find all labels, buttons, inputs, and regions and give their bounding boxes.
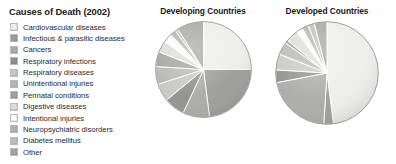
- legend-item: Respiratory infections: [8, 56, 148, 67]
- legend-swatch: [10, 57, 18, 65]
- legend-item-label: Respiratory diseases: [23, 67, 94, 78]
- legend-swatch: [10, 103, 18, 111]
- pie-canvas-developed: [273, 19, 381, 127]
- legend-item-label: Digestive diseases: [23, 101, 86, 112]
- legend-list: Cardiovascular diseasesInfectious & para…: [8, 22, 148, 158]
- pie-chart-developed: Developed Countries: [268, 6, 386, 127]
- legend-item-label: Cancers: [23, 44, 51, 55]
- legend-item-label: Neuropsychiatric disorders: [23, 124, 113, 135]
- legend-item: Digestive diseases: [8, 101, 148, 112]
- pie-title-developed: Developed Countries: [268, 6, 386, 16]
- legend-item: Infectious & parasitic diseases: [8, 33, 148, 44]
- legend-item-label: Infectious & parasitic diseases: [23, 33, 125, 44]
- legend-swatch: [10, 23, 18, 31]
- pie-title-developing: Developing Countries: [148, 6, 258, 16]
- legend-item-label: Cardiovascular diseases: [23, 22, 106, 33]
- legend-item: Neuropsychiatric disorders: [8, 124, 148, 135]
- legend-item: Diabetes mellitus: [8, 135, 148, 146]
- legend-swatch: [10, 137, 18, 145]
- legend-swatch: [10, 69, 18, 77]
- legend-item-label: Diabetes mellitus: [23, 135, 81, 146]
- legend-swatch: [10, 46, 18, 54]
- legend-swatch: [10, 91, 18, 99]
- legend-item: Intentional injuries: [8, 113, 148, 124]
- pie-svg-developed: [273, 19, 381, 127]
- legend-panel: Causes of Death (2002) Cardiovascular di…: [8, 6, 148, 158]
- pie-shading-overlay: [276, 22, 379, 125]
- legend-swatch: [10, 34, 18, 42]
- pie-canvas-developing: [153, 19, 254, 120]
- pie-chart-developing: Developing Countries: [148, 6, 258, 120]
- figure-title: Causes of Death (2002): [9, 6, 148, 17]
- causes-of-death-figure: Causes of Death (2002) Cardiovascular di…: [0, 0, 396, 164]
- legend-item: Unintentional injuries: [8, 78, 148, 89]
- legend-item: Cancers: [8, 44, 148, 55]
- legend-item-label: Respiratory infections: [23, 56, 96, 67]
- pie-svg-developing: [153, 19, 254, 120]
- pie-shading-overlay: [155, 22, 251, 118]
- legend-item: Other: [8, 147, 148, 158]
- legend-item-label: Intentional injuries: [23, 113, 84, 124]
- legend-item-label: Unintentional injuries: [23, 78, 93, 89]
- legend-swatch: [10, 148, 18, 156]
- legend-swatch: [10, 125, 18, 133]
- legend-item: Perinatal conditions: [8, 90, 148, 101]
- legend-item-label: Perinatal conditions: [23, 90, 89, 101]
- legend-item: Cardiovascular diseases: [8, 22, 148, 33]
- legend-item: Respiratory diseases: [8, 67, 148, 78]
- legend-swatch: [10, 80, 18, 88]
- legend-item-label: Other: [23, 147, 42, 158]
- legend-swatch: [10, 114, 18, 122]
